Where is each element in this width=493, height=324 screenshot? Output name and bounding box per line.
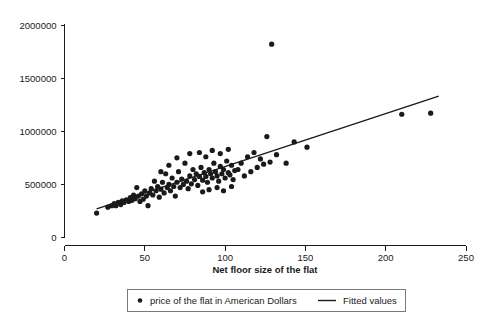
data-point bbox=[158, 169, 163, 174]
x-tick-label: 200 bbox=[378, 252, 394, 263]
data-point bbox=[190, 167, 195, 172]
data-point bbox=[267, 159, 272, 164]
data-point bbox=[170, 175, 175, 180]
y-tick-label: 1000000 bbox=[20, 126, 57, 137]
data-points-layer bbox=[94, 42, 433, 216]
data-point bbox=[150, 192, 155, 197]
data-point bbox=[242, 173, 247, 178]
data-point bbox=[168, 188, 173, 193]
data-point bbox=[163, 171, 168, 176]
data-point bbox=[182, 161, 187, 166]
data-point bbox=[269, 42, 274, 47]
data-point bbox=[210, 175, 215, 180]
data-point bbox=[176, 169, 181, 174]
data-point bbox=[255, 165, 260, 170]
data-point bbox=[235, 167, 240, 172]
data-point bbox=[166, 163, 171, 168]
data-point bbox=[227, 172, 232, 177]
data-point bbox=[216, 179, 221, 184]
data-point bbox=[274, 152, 279, 157]
data-point bbox=[94, 210, 99, 215]
data-point bbox=[189, 181, 194, 186]
y-tick-label: 500000 bbox=[25, 179, 57, 190]
data-point bbox=[173, 193, 178, 198]
data-point bbox=[161, 190, 166, 195]
data-point bbox=[174, 155, 179, 160]
data-point bbox=[221, 188, 226, 193]
data-point bbox=[231, 177, 236, 182]
legend-point-marker bbox=[138, 298, 143, 303]
data-point bbox=[157, 195, 162, 200]
data-point bbox=[211, 161, 216, 166]
data-point bbox=[203, 154, 208, 159]
data-point bbox=[197, 150, 202, 155]
x-tick-label: 150 bbox=[297, 252, 313, 263]
data-point bbox=[428, 111, 433, 116]
data-point bbox=[186, 186, 191, 191]
x-tick-label: 0 bbox=[62, 252, 67, 263]
x-axis-ticks: 050100150200250 bbox=[62, 246, 474, 264]
data-point bbox=[145, 203, 150, 208]
fitted-line bbox=[97, 96, 439, 209]
x-tick-label: 250 bbox=[458, 252, 474, 263]
data-point bbox=[248, 169, 253, 174]
x-tick-label: 50 bbox=[140, 252, 151, 263]
data-point bbox=[214, 173, 219, 178]
data-point bbox=[226, 147, 231, 152]
data-point bbox=[205, 180, 210, 185]
data-point bbox=[187, 151, 192, 156]
data-point bbox=[223, 175, 228, 180]
plot-area: 0500000100000015000002000000 05010015020… bbox=[20, 20, 474, 264]
legend-point-label: price of the flat in American Dollars bbox=[150, 295, 297, 306]
x-axis-title: Net floor size of the flat bbox=[212, 264, 318, 275]
data-point bbox=[160, 180, 165, 185]
y-tick-label: 0 bbox=[51, 232, 56, 243]
data-point bbox=[203, 174, 208, 179]
data-point bbox=[251, 150, 256, 155]
data-point bbox=[152, 179, 157, 184]
data-point bbox=[214, 185, 219, 190]
data-point bbox=[224, 158, 229, 163]
data-point bbox=[304, 145, 309, 150]
data-point bbox=[264, 134, 269, 139]
legend-line-label: Fitted values bbox=[343, 295, 397, 306]
x-tick-label: 100 bbox=[217, 252, 233, 263]
scatter-chart: 0500000100000015000002000000 05010015020… bbox=[0, 0, 493, 324]
legend: price of the flat in American Dollars Fi… bbox=[128, 290, 406, 312]
data-point bbox=[206, 187, 211, 192]
data-point bbox=[258, 156, 263, 161]
data-point bbox=[399, 112, 404, 117]
data-point bbox=[200, 189, 205, 194]
y-tick-label: 2000000 bbox=[20, 20, 57, 31]
data-point bbox=[195, 183, 200, 188]
y-tick-label: 1500000 bbox=[20, 73, 57, 84]
data-point bbox=[134, 185, 139, 190]
chart-svg: 0500000100000015000002000000 05010015020… bbox=[0, 0, 493, 324]
data-point bbox=[284, 161, 289, 166]
data-point bbox=[229, 184, 234, 189]
data-point bbox=[210, 148, 215, 153]
data-point bbox=[198, 165, 203, 170]
data-point bbox=[261, 162, 266, 167]
y-axis-ticks: 0500000100000015000002000000 bbox=[20, 20, 65, 244]
data-point bbox=[218, 151, 223, 156]
